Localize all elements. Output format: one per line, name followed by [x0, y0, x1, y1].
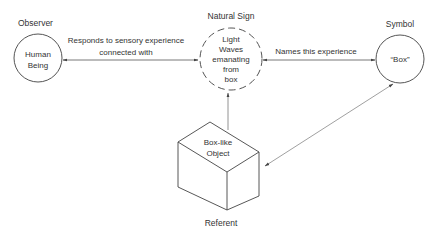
- symbol-line-1: “Box”: [390, 55, 409, 64]
- observer-sign-label-2: connected with: [99, 48, 152, 57]
- symbol-heading: Symbol: [386, 19, 414, 29]
- natural-sign-line-2: Waves: [219, 45, 243, 54]
- natural-sign-line-4: from: [223, 65, 239, 74]
- referent-line-1: Box-like: [204, 138, 233, 147]
- natural-sign-line-5: box: [225, 75, 238, 84]
- referent-line-2: Object: [206, 149, 230, 158]
- natural-sign-line-1: Light: [222, 35, 240, 44]
- natural-sign-heading: Natural Sign: [208, 11, 255, 21]
- observer-sign-label-1: Responds to sensory experience: [68, 36, 185, 45]
- observer-line-1: Human: [25, 50, 51, 59]
- sign-symbol-label: Names this experience: [275, 47, 357, 56]
- natural-sign-line-3: emanating: [212, 55, 249, 64]
- observer-line-2: Being: [28, 61, 48, 70]
- referent-heading: Referent: [205, 218, 238, 228]
- box-object-icon: [178, 122, 259, 210]
- symbol-referent-arrow: [265, 84, 393, 166]
- observer-heading: Observer: [18, 18, 53, 28]
- semiotic-diagram: Observer Human Being Natural Sign Light …: [0, 0, 444, 234]
